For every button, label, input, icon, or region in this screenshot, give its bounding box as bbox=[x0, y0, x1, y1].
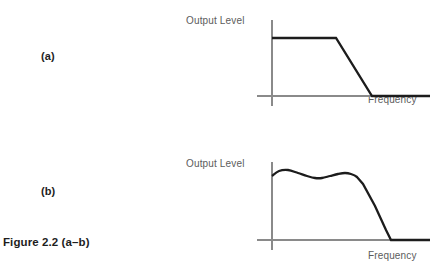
panel-letter-b: (b) bbox=[41, 185, 55, 197]
chart-panel-b bbox=[255, 152, 430, 247]
figure-caption: Figure 2.2 (a–b) bbox=[3, 236, 90, 248]
chart-panel-a bbox=[255, 8, 430, 103]
response-curve-b bbox=[272, 170, 430, 240]
x-axis-label-b: Frequency bbox=[368, 250, 417, 261]
y-axis-label-b: Output Level bbox=[186, 158, 245, 169]
panel-letter-a: (a) bbox=[41, 50, 55, 62]
response-curve-a bbox=[272, 38, 430, 96]
figure-2-2: (a) Output Level Frequency (b) Output Le… bbox=[0, 0, 445, 269]
y-axis-label-a: Output Level bbox=[186, 15, 245, 26]
